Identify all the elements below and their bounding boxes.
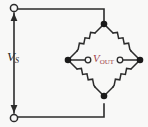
- upper-left-resistor: [77, 32, 95, 51]
- supply-terminal-top: [10, 4, 17, 11]
- output-voltage-symbol: V: [93, 52, 100, 64]
- supply-arrow-down-icon: [11, 105, 18, 113]
- lower-left-resistor: [77, 68, 95, 87]
- bridge-node-top: [101, 21, 108, 28]
- supply-voltage-symbol: V: [7, 49, 15, 64]
- bridge-node-left: [65, 57, 72, 64]
- supply-arrow-up-icon: [11, 13, 18, 21]
- circuit-schematic: [0, 0, 148, 127]
- lower-right-resistor: [113, 68, 131, 87]
- output-terminal-right: [117, 57, 123, 63]
- wire-top: [14, 9, 104, 22]
- supply-voltage-subscript: S: [15, 56, 19, 65]
- wire-arm-top-right-upper: [107, 27, 114, 34]
- wire-arm-top-right-lower: [131, 51, 138, 58]
- wheatstone-bridge-figure: VS VOUT: [0, 0, 148, 127]
- wire-arm-top-left-lower: [71, 51, 78, 58]
- supply-wiring: [14, 9, 104, 117]
- supply-terminal-bottom: [10, 114, 17, 121]
- upper-right-resistor: [113, 32, 131, 51]
- output-voltage-subscript: OUT: [100, 58, 114, 66]
- wire-bottom: [14, 104, 104, 117]
- bridge-node-right: [137, 57, 144, 64]
- output-terminal-left: [85, 57, 91, 63]
- wire-arm-bottom-right-lower: [107, 87, 114, 94]
- supply-voltage-label: VS: [7, 50, 19, 65]
- wire-arm-bottom-right-upper: [131, 63, 138, 70]
- wire-arm-top-left-upper: [95, 27, 102, 34]
- wire-arm-bottom-left-lower: [95, 87, 102, 94]
- bridge-node-bottom: [101, 93, 108, 100]
- wire-arm-bottom-left-upper: [71, 63, 78, 70]
- output-voltage-label: VOUT: [93, 53, 114, 66]
